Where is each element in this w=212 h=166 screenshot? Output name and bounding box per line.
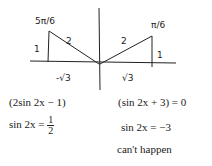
right-solution-equation: sin 2x = −3 <box>121 121 171 133</box>
left-angle-label: 5π/6 <box>35 16 55 26</box>
left-adj-label: -√3 <box>56 73 71 83</box>
left-solution-lhs: sin 2x = <box>9 118 45 130</box>
right-opp-label: 1 <box>157 50 163 60</box>
unit-circle-triangles-sketch: 5π/6 2 1 -√3 π/6 2 1 √3 <box>0 0 212 90</box>
left-factor-equation: (2sin 2x − 1) <box>9 96 66 108</box>
left-opp-label: 1 <box>34 44 40 54</box>
left-hyp-label: 2 <box>66 36 72 46</box>
cant-happen-note: can't happen <box>117 143 172 155</box>
right-angle-label: π/6 <box>151 20 165 30</box>
right-factor-equation: (sin 2x + 3) = 0 <box>118 96 186 108</box>
y-axis <box>99 8 100 90</box>
left-solution-equation: sin 2x = 1 2 <box>9 115 54 136</box>
left-triangle <box>48 31 99 64</box>
right-hyp-label: 2 <box>121 36 127 46</box>
fraction-denominator: 2 <box>47 126 54 136</box>
right-adj-label: √3 <box>122 73 133 83</box>
one-half-fraction: 1 2 <box>47 115 54 136</box>
